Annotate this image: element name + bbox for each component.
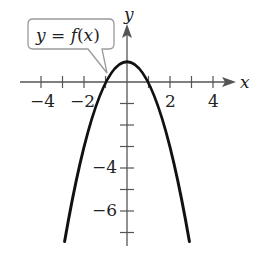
- chart-svg: −4 −2 2 4 −4 −6 x y y = f(x): [0, 0, 263, 254]
- chart: −4 −2 2 4 −4 −6 x y y = f(x): [0, 0, 263, 254]
- x-tick-label-neg4: −4: [30, 91, 55, 111]
- x-tick-label-4: 4: [208, 91, 219, 111]
- y-axis-label: y: [123, 4, 134, 24]
- y-tick-label-neg4: −4: [92, 157, 117, 177]
- callout-label: y = f(x): [35, 25, 100, 45]
- y-tick-label-neg6: −6: [92, 200, 117, 220]
- x-axis-label: x: [240, 72, 250, 92]
- x-tick-label-2: 2: [165, 91, 176, 111]
- x-tick-label-neg2: −2: [70, 91, 95, 111]
